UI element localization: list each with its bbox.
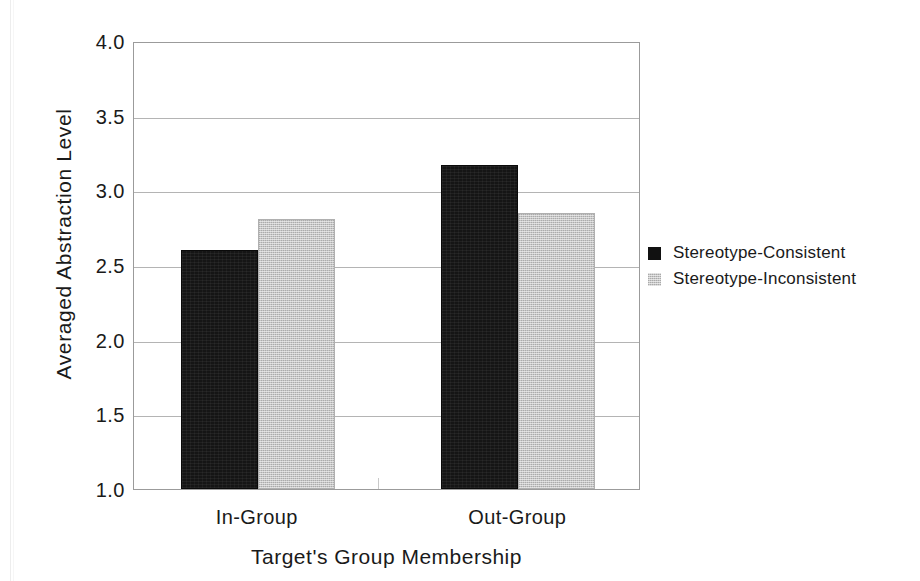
legend-item: Stereotype-Inconsistent (648, 266, 918, 292)
gridline (134, 192, 639, 193)
bar-out-group-stereotype-inconsistent (518, 213, 595, 489)
legend-item-label: Stereotype-Inconsistent (673, 269, 856, 289)
scan-artifact-line-secondary (13, 0, 14, 581)
bar-out-group-stereotype-consistent (441, 165, 518, 489)
x-axis-tick-label: Out-Group (407, 506, 627, 529)
plot-area (133, 42, 640, 490)
legend-item-label: Stereotype-Consistent (673, 243, 845, 263)
black-square-icon (648, 247, 661, 260)
x-axis-title: Target's Group Membership (133, 545, 640, 569)
gridline (134, 118, 639, 119)
bar-in-group-stereotype-consistent (181, 250, 258, 489)
legend-item: Stereotype-Consistent (648, 240, 918, 266)
y-axis-tick-label: 1.0 (65, 480, 125, 500)
bar-chart-figure: 4.03.53.02.52.01.51.0 Averaged Abstracti… (0, 0, 920, 581)
bar-in-group-stereotype-inconsistent (258, 219, 335, 489)
y-axis-title: Averaged Abstraction Level (52, 44, 76, 444)
x-axis-tick-label: In-Group (147, 506, 367, 529)
scan-artifact-line (10, 0, 11, 581)
baseline-tick-mark (378, 478, 379, 489)
chart-legend: Stereotype-ConsistentStereotype-Inconsis… (648, 240, 918, 292)
gray-square-icon (648, 273, 661, 286)
